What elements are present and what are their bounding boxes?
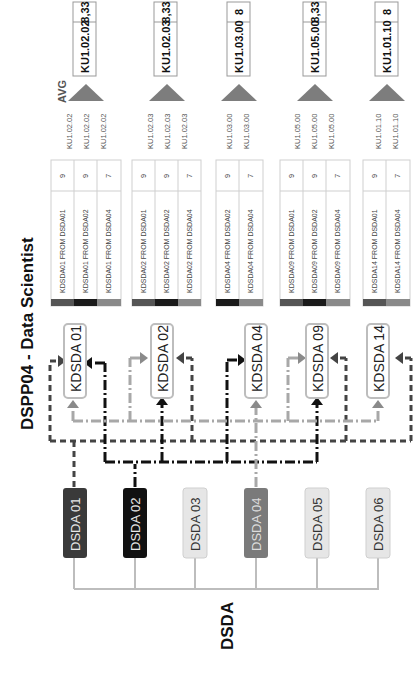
connector-dsda02 [92, 360, 317, 487]
source-box-dsda03[interactable]: DSDA 03 [183, 488, 207, 558]
svg-text:DSDA 03: DSDA 03 [188, 498, 203, 551]
avg-label: AVG [56, 80, 68, 103]
svg-text:KU1.01.10: KU1.01.10 [374, 114, 383, 149]
svg-text:9: 9 [370, 174, 379, 178]
svg-text:9: 9 [162, 174, 171, 178]
table-kdsda14: KDSDA14 FROM DSDA01 KDSDA14 FROM DSDA04 … [363, 160, 410, 306]
svg-text:7: 7 [185, 174, 194, 178]
target-box-kdsda01[interactable]: KDSDA 01 [64, 324, 86, 398]
ku-list-kdsda04: KU1.03.00 KU1.03.00 [225, 114, 251, 149]
source-box-dsda02[interactable]: DSDA 02 [123, 488, 147, 558]
source-box-dsda01[interactable]: DSDA 01 [63, 488, 87, 558]
svg-text:KU1.05.00: KU1.05.00 [309, 20, 321, 73]
avg-triangles [68, 84, 405, 101]
svg-text:KDSDA09 FROM DSDA01: KDSDA09 FROM DSDA01 [288, 209, 295, 293]
svg-text:KDSDA01 FROM DSDA04: KDSDA01 FROM DSDA04 [105, 209, 112, 293]
svg-text:KU1.02.03: KU1.02.03 [146, 114, 155, 149]
svg-text:KDSDA 14: KDSDA 14 [371, 325, 387, 392]
svg-text:KDSDA 04: KDSDA 04 [249, 325, 265, 392]
svg-text:KU1.03.00: KU1.03.00 [225, 114, 234, 149]
svg-text:KDSDA14 FROM DSDA01: KDSDA14 FROM DSDA01 [371, 209, 378, 293]
ku-list-kdsda01: KU1.02.02 KU1.02.02 KU1.02.02 [65, 114, 108, 149]
svg-text:KDSDA 02: KDSDA 02 [155, 325, 171, 392]
svg-text:KU1.01.10: KU1.01.10 [391, 114, 400, 149]
svg-text:DSDA 04: DSDA 04 [249, 498, 264, 551]
svg-text:9: 9 [287, 174, 296, 178]
svg-text:KU1.02.02: KU1.02.02 [79, 20, 91, 73]
result-kdsda02: KU1.02.03 8,33 [154, 1, 177, 76]
target-box-kdsda09[interactable]: KDSDA 09 [306, 324, 328, 398]
connector-dsda04 [73, 358, 378, 487]
svg-text:7: 7 [246, 174, 255, 178]
svg-text:KU1.02.03: KU1.02.03 [160, 20, 172, 73]
svg-text:KDSDA04 FROM DSDA04: KDSDA04 FROM DSDA04 [247, 209, 254, 293]
source-box-dsda04[interactable]: DSDA 04 [244, 488, 268, 558]
target-box-kdsda14[interactable]: KDSDA 14 [367, 324, 389, 398]
svg-text:KDSDA14 FROM DSDA04: KDSDA14 FROM DSDA04 [394, 209, 401, 293]
result-kdsda04: KU1.03.00 8 [227, 2, 250, 76]
svg-text:8,33: 8,33 [160, 1, 172, 22]
avg-triangle-icon [149, 84, 185, 101]
avg-triangle-icon [68, 84, 104, 101]
svg-text:KU1.03.00: KU1.03.00 [233, 20, 245, 73]
svg-text:8,33: 8,33 [79, 1, 91, 22]
ku-list-kdsda02: KU1.02.03 KU1.02.03 KU1.02.03 [146, 114, 189, 149]
svg-text:KDSDA02 FROM DSDA02: KDSDA02 FROM DSDA02 [163, 209, 170, 293]
table-kdsda04: KDSDA04 FROM DSDA02 KDSDA04 FROM DSDA04 … [216, 160, 263, 306]
group-label: DSDA [218, 602, 237, 650]
table-kdsda01: KDSDA01 FROM DSDA01 KDSDA01 FROM DSDA02 … [51, 160, 121, 306]
svg-text:7: 7 [104, 174, 113, 178]
svg-text:9: 9 [58, 174, 67, 178]
svg-text:KU1.02.03: KU1.02.03 [163, 114, 172, 149]
table-kdsda02: KDSDA02 FROM DSDA01 KDSDA02 FROM DSDA02 … [132, 160, 201, 306]
svg-text:KDSDA02 FROM DSDA04: KDSDA02 FROM DSDA04 [186, 209, 193, 293]
svg-text:KDSDA04 FROM DSDA02: KDSDA04 FROM DSDA02 [224, 209, 231, 293]
svg-text:KDSDA09 FROM DSDA04: KDSDA09 FROM DSDA04 [334, 209, 341, 293]
svg-text:KDSDA01 FROM DSDA01: KDSDA01 FROM DSDA01 [59, 209, 66, 293]
svg-text:KU1.03.00: KU1.03.00 [242, 114, 251, 149]
avg-triangle-icon [369, 84, 405, 101]
result-kdsda09: KU1.05.00 8,33 [303, 1, 326, 76]
svg-text:7: 7 [393, 174, 402, 178]
svg-text:8: 8 [381, 9, 393, 15]
source-box-dsda06[interactable]: DSDA 06 [366, 488, 390, 558]
svg-text:KDSDA 09: KDSDA 09 [310, 325, 326, 392]
svg-text:7: 7 [333, 174, 342, 178]
svg-text:KU1.02.03: KU1.02.03 [180, 114, 189, 149]
svg-text:KDSDA09 FROM DSDA02: KDSDA09 FROM DSDA02 [311, 209, 318, 293]
target-box-kdsda04[interactable]: KDSDA 04 [245, 324, 267, 398]
svg-text:KU1.02.02: KU1.02.02 [99, 114, 108, 149]
svg-text:DSDA 01: DSDA 01 [68, 498, 83, 551]
svg-text:KU1.02.02: KU1.02.02 [65, 114, 74, 149]
table-kdsda09: KDSDA09 FROM DSDA01 KDSDA09 FROM DSDA02 … [280, 160, 350, 306]
svg-text:KU1.05.00: KU1.05.00 [293, 114, 302, 149]
svg-text:KU1.02.02: KU1.02.02 [82, 114, 91, 149]
result-kdsda14: KU1.01.10 8 [375, 2, 398, 76]
svg-text:KDSDA01 FROM DSDA02: KDSDA01 FROM DSDA02 [82, 209, 89, 293]
svg-text:DSDA 02: DSDA 02 [128, 498, 143, 551]
ku-list-kdsda14: KU1.01.10 KU1.01.10 [374, 114, 400, 149]
svg-text:KU1.05.00: KU1.05.00 [327, 114, 336, 149]
svg-text:9: 9 [139, 174, 148, 178]
svg-text:9: 9 [223, 174, 232, 178]
svg-text:DSDA 05: DSDA 05 [310, 498, 325, 551]
diagram-title: DSPP04 - Data Scientist [18, 237, 37, 430]
svg-text:8: 8 [233, 9, 245, 15]
svg-text:KDSDA 01: KDSDA 01 [68, 325, 84, 392]
source-tree [74, 557, 379, 589]
target-box-kdsda02[interactable]: KDSDA 02 [151, 324, 173, 398]
ku-list-kdsda09: KU1.05.00 KU1.05.00 KU1.05.00 [293, 114, 336, 149]
svg-text:DSDA 06: DSDA 06 [371, 498, 386, 551]
svg-text:8,33: 8,33 [309, 1, 321, 22]
source-box-dsda05[interactable]: DSDA 05 [305, 488, 329, 558]
svg-text:9: 9 [310, 174, 319, 178]
svg-text:KU1.05.00: KU1.05.00 [310, 114, 319, 149]
svg-text:9: 9 [81, 174, 90, 178]
avg-triangle-icon [221, 84, 257, 101]
result-kdsda01: KU1.02.02 8,33 [73, 1, 96, 76]
svg-text:KDSDA02 FROM DSDA01: KDSDA02 FROM DSDA01 [140, 209, 147, 293]
diagram-canvas: DSPP04 - Data Scientist DSDA DSDA 01 DSD… [0, 0, 418, 685]
avg-triangle-icon [297, 84, 333, 101]
svg-text:KU1.01.10: KU1.01.10 [381, 20, 393, 73]
